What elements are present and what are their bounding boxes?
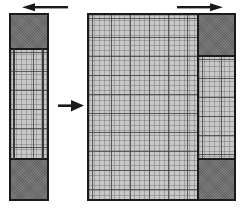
left-strip-inner-edge-left <box>13 49 15 159</box>
wide-block <box>87 13 236 201</box>
wide-block-main-hatch-region <box>89 15 197 199</box>
wide-block-side-hatch-region <box>199 56 234 159</box>
left-strip-inner-edge-right <box>42 49 44 159</box>
narrow-strip <box>9 13 49 201</box>
wide-block-column-divider <box>197 15 199 199</box>
wide-block-side-divider-top <box>197 55 234 57</box>
transition-arrow <box>58 98 84 114</box>
wide-block-bottom-dark-block <box>199 159 234 199</box>
top-left-arrow <box>22 2 68 12</box>
wide-block-side-divider-bottom <box>197 158 234 160</box>
wide-block-top-dark-block <box>199 15 234 56</box>
top-right-arrow <box>177 2 223 12</box>
left-strip-top-dark-block <box>11 15 47 49</box>
figure-canvas <box>0 0 244 214</box>
left-strip-bottom-dark-block <box>11 159 47 199</box>
